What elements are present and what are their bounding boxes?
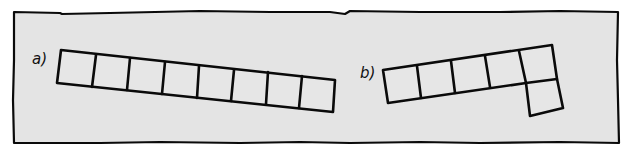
figure-canvas: a) b) xyxy=(0,0,631,153)
label-a: a) xyxy=(32,50,47,68)
label-b: b) xyxy=(360,64,375,82)
